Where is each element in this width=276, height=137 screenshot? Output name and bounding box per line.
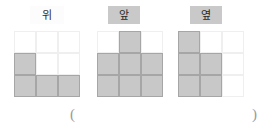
grid-cell-filled[interactable] bbox=[119, 75, 141, 97]
grid-cell-empty[interactable] bbox=[222, 31, 244, 53]
grid-cell-filled[interactable] bbox=[141, 53, 163, 75]
answer-open-paren: ( bbox=[70, 106, 75, 123]
grid-cell-empty[interactable] bbox=[222, 75, 244, 97]
grid-cell-filled[interactable] bbox=[97, 75, 119, 97]
top-view-label: 위 bbox=[30, 6, 64, 24]
grid-cell-empty[interactable] bbox=[36, 53, 58, 75]
answer-blank-row: ( ) bbox=[0, 100, 276, 137]
grid-cell-empty[interactable] bbox=[222, 53, 244, 75]
grid-cell-filled[interactable] bbox=[200, 53, 222, 75]
grid-cell-empty[interactable] bbox=[14, 31, 36, 53]
front-view-label: 앞 bbox=[108, 6, 140, 24]
side-view-label: 옆 bbox=[190, 6, 222, 24]
grid-cell-empty[interactable] bbox=[141, 31, 163, 53]
grid-cell-empty[interactable] bbox=[97, 31, 119, 53]
grid-cell-empty[interactable] bbox=[58, 31, 80, 53]
grid-cell-empty[interactable] bbox=[58, 53, 80, 75]
grid-cell-filled[interactable] bbox=[141, 75, 163, 97]
grid-cell-filled[interactable] bbox=[119, 53, 141, 75]
grid-cell-filled[interactable] bbox=[178, 53, 200, 75]
grid-cell-empty[interactable] bbox=[200, 31, 222, 53]
top-view-grid bbox=[14, 31, 80, 97]
grid-cell-filled[interactable] bbox=[36, 75, 58, 97]
grid-cell-filled[interactable] bbox=[200, 75, 222, 97]
front-view-grid bbox=[97, 31, 163, 97]
grid-cell-filled[interactable] bbox=[14, 53, 36, 75]
grid-cell-empty[interactable] bbox=[36, 31, 58, 53]
grid-cell-filled[interactable] bbox=[58, 75, 80, 97]
grid-cell-filled[interactable] bbox=[178, 31, 200, 53]
grid-cell-filled[interactable] bbox=[14, 75, 36, 97]
answer-close-paren: ) bbox=[252, 106, 257, 123]
grid-cell-filled[interactable] bbox=[178, 75, 200, 97]
grid-cell-filled[interactable] bbox=[97, 53, 119, 75]
grid-cell-filled[interactable] bbox=[119, 31, 141, 53]
side-view-grid bbox=[178, 31, 244, 97]
